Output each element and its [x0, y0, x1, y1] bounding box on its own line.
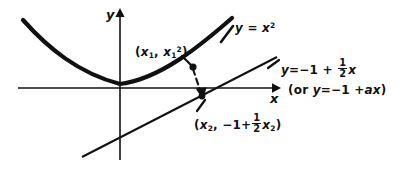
parabola-equation-label: y = x2: [235, 22, 275, 34]
math-diagram-figure: y x y = x2 (x1, x12) y=−1 + 12x (or y=−1…: [0, 0, 405, 175]
line-eq-plus: +: [323, 63, 333, 77]
parabola-exponent: 2: [270, 21, 275, 30]
line-alt-coefficient: a: [364, 83, 372, 97]
line-eq-fraction-denominator: 2: [338, 68, 347, 79]
line-eq-lhs: y: [281, 63, 289, 77]
x-axis-label: x: [270, 92, 279, 105]
point2-plus: +: [241, 118, 251, 132]
x-axis: [18, 83, 281, 93]
line-equation-label: y=−1 + 12x: [281, 58, 356, 79]
line-alt-variable: x: [373, 83, 381, 97]
point2-fraction: 12: [252, 113, 261, 134]
parabola-curve: [23, 18, 232, 84]
parabola-lhs: y: [235, 21, 243, 35]
point2-fraction-numerator: 1: [252, 113, 261, 123]
point-on-parabola-label: (x1, x12): [135, 46, 188, 60]
line-eq-fraction-numerator: 1: [338, 58, 347, 68]
line-alt-lhs: y: [313, 83, 321, 97]
line-eq-constant: −1: [299, 63, 318, 77]
point2-label-leader: [197, 100, 205, 111]
point-on-line-marker: [199, 93, 206, 100]
point1-comma: ,: [154, 45, 163, 59]
line-alt-constant: −1: [331, 83, 350, 97]
parabola-equals: =: [243, 21, 262, 35]
point2-x-base: x: [200, 118, 208, 132]
point2-fraction-denominator: 2: [252, 123, 261, 134]
point2-constant: −1: [222, 118, 241, 132]
line-alt-equals: =: [321, 83, 331, 97]
point1-y-base: x: [163, 45, 171, 59]
line-eq-variable: x: [348, 63, 356, 77]
line-alt-open: (or: [288, 83, 313, 97]
point2-close-paren: ): [276, 118, 282, 132]
point1-close-paren: ): [182, 45, 188, 59]
point1-x-base: x: [141, 45, 149, 59]
line-equation-alt-label: (or y=−1 +ax): [288, 84, 386, 96]
y-axis-label: y: [106, 8, 115, 21]
secant-line: [82, 57, 277, 157]
point-on-line-label: (x2, −1+12x2): [194, 113, 281, 134]
line-eq-fraction: 12: [338, 58, 347, 79]
line-eq-equals: =: [289, 63, 299, 77]
line-alt-close: ): [381, 83, 387, 97]
parabola-base: x: [262, 21, 270, 35]
point2-comma: ,: [213, 118, 222, 132]
line-alt-plus: +: [354, 83, 364, 97]
